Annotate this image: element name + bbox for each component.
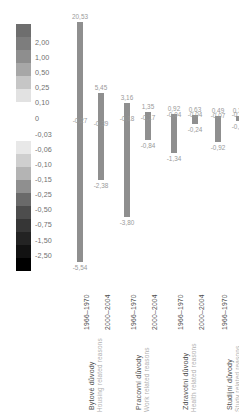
bar-value-label: -0,07	[211, 112, 226, 119]
legend-color-cell	[16, 128, 31, 141]
x-axis-period-label: 1966–1970	[221, 294, 228, 330]
legend-label: -0,75	[35, 220, 52, 229]
legend-color-cell	[16, 115, 31, 128]
group-label-cz: Zdravotní důvody	[182, 353, 189, 410]
bar-value-label: -0,84	[141, 142, 156, 149]
bar-value-label: -0,03	[232, 111, 239, 118]
legend-label: -0,03	[35, 130, 52, 139]
legend-color-cell	[16, 245, 31, 258]
legend-label: 2,00	[35, 38, 49, 47]
legend-label: 1,00	[35, 53, 49, 62]
legend-color-cell	[16, 63, 31, 76]
legend-label: 0,10	[35, 98, 49, 107]
group-label-en: Housing related reasons	[96, 338, 103, 412]
bar-value-label: -0,18	[120, 115, 135, 122]
bar-value-label: -0,04	[167, 111, 182, 118]
bar[interactable]	[171, 114, 177, 153]
bar-value-label: -3,80	[120, 219, 135, 226]
x-axis-period-label: 1966–1970	[130, 294, 137, 330]
bar-value-label: -5,54	[73, 264, 88, 271]
legend-color-cell	[16, 219, 31, 232]
bar[interactable]	[77, 22, 83, 262]
legend-color-cell	[16, 102, 31, 115]
bar-value-label: -0,04	[188, 111, 203, 118]
x-axis-period-label: 1966–1970	[83, 294, 90, 330]
legend-color-cell	[16, 37, 31, 50]
bar-value-label: -1,34	[167, 155, 182, 162]
legend-label: -2,50	[35, 251, 52, 260]
legend-label: 0,50	[35, 68, 49, 77]
x-axis-period-label: 2000–2004	[104, 294, 111, 330]
group-label-en: Health related reasons	[190, 343, 197, 412]
group-label-cz: Pracovní důvody	[135, 355, 142, 410]
legend-label: -0,10	[35, 160, 52, 169]
x-axis-period-label: 2000–2004	[198, 294, 205, 330]
group-label-en: Study related reasons	[234, 346, 239, 412]
bar-value-label: -0,24	[188, 126, 203, 133]
bar-value-label: -2,38	[94, 182, 109, 189]
legend-color-cell	[16, 206, 31, 219]
bar-plot-area: 1966–197020,53-0,27-5,542000–20045,45-0,…	[60, 0, 239, 416]
legend-color-cell	[16, 193, 31, 206]
bar-value-label: -0,13	[232, 123, 239, 130]
chart-canvas: 2,001,000,500,250,100-0,03-0,06-0,10-0,1…	[0, 0, 239, 416]
bar-value-label: -0,17	[141, 114, 156, 121]
x-axis-period-label: 2000–2004	[151, 294, 158, 330]
group-label-cz: Bytové důvody	[88, 361, 95, 410]
legend-label: -0,25	[35, 190, 52, 199]
legend-label: -0,15	[35, 175, 52, 184]
legend-gradient-strip	[16, 24, 31, 271]
bar-value-label: 1,35	[142, 103, 154, 110]
legend-color-cell	[16, 50, 31, 63]
legend-color-cell	[16, 141, 31, 154]
legend-color-cell	[16, 89, 31, 102]
legend-color-cell	[16, 180, 31, 193]
legend-color-cell	[16, 76, 31, 89]
bar-value-label: 3,16	[121, 94, 133, 101]
legend-color-cell	[16, 24, 31, 37]
legend-label: 0	[35, 114, 39, 123]
legend-color-cell	[16, 167, 31, 180]
bar[interactable]	[98, 93, 104, 180]
bar-value-label: -0,27	[73, 117, 88, 124]
group-label-cz: Studijní důvody	[226, 359, 233, 410]
legend-color-cell	[16, 154, 31, 167]
bar-value-label: -0,92	[211, 144, 226, 151]
legend-label: -0,06	[35, 145, 52, 154]
legend-label: -1,50	[35, 236, 52, 245]
legend-label: -0,50	[35, 205, 52, 214]
bar-value-label: 5,45	[95, 84, 107, 91]
bar-value-label: 20,53	[72, 13, 88, 20]
legend-color-cell	[16, 258, 31, 271]
bar-value-label: -0,39	[94, 120, 109, 127]
x-axis-period-label: 1966–1970	[177, 294, 184, 330]
bar[interactable]	[215, 116, 221, 142]
legend-label: 0,25	[35, 83, 49, 92]
legend-color-cell	[16, 232, 31, 245]
group-label-en: Work related reasons	[143, 347, 150, 412]
